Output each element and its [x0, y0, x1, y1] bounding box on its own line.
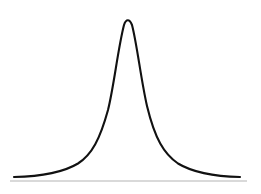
figure-background	[0, 0, 261, 194]
bell-curve-svg	[0, 0, 261, 194]
bell-curve-figure	[0, 0, 261, 194]
